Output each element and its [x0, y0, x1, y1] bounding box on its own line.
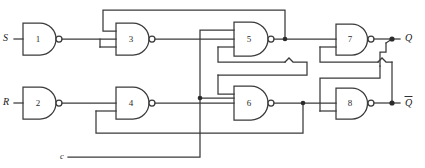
- gate-2-inverter-bubble: [56, 100, 62, 106]
- gate-1-inverter-bubble: [56, 36, 62, 42]
- junction-g6-output: [301, 101, 306, 106]
- wire-to-g6-mid-input: [218, 75, 234, 94]
- gate-6-inverter-bubble: [268, 100, 274, 106]
- output-label-q: Q: [405, 32, 413, 43]
- gate-8: 8: [336, 88, 374, 119]
- logic-diagram-canvas: 1 2 3 4 5 6: [0, 0, 425, 168]
- gate-4: 4: [116, 87, 155, 119]
- gate-3-inverter-bubble: [149, 36, 155, 42]
- wire-clock-to-g5: [68, 30, 234, 157]
- gate-6: 6: [234, 86, 274, 120]
- wire-crossover-hop-mid: [218, 58, 307, 75]
- gate-3-label: 3: [129, 34, 134, 44]
- gate-2: 2: [23, 87, 62, 119]
- gate-3: 3: [116, 23, 155, 55]
- gate-5-inverter-bubble: [268, 36, 274, 42]
- input-label-s: S: [3, 32, 8, 43]
- junction-qbar-output: [389, 100, 394, 105]
- input-label-r: R: [2, 96, 9, 107]
- gate-7-inverter-bubble: [368, 36, 374, 42]
- junction-g5-output: [283, 37, 288, 42]
- gate-1-label: 1: [36, 34, 41, 44]
- gate-8-label: 8: [348, 98, 353, 108]
- gate-2-label: 2: [36, 98, 41, 108]
- gate-4-label: 4: [129, 98, 134, 108]
- gate-5-label: 5: [247, 34, 252, 44]
- gate-7: 7: [336, 24, 374, 55]
- circuit-svg: 1 2 3 4 5 6: [0, 0, 425, 168]
- gate-4-inverter-bubble: [149, 100, 155, 106]
- gate-7-label: 7: [348, 34, 353, 44]
- wire-q-to-g8-riser: [380, 43, 386, 66]
- input-label-c: c: [60, 151, 64, 161]
- junction-clock-tap: [198, 96, 203, 101]
- gate-5: 5: [234, 22, 274, 56]
- output-label-qbar: Q: [405, 97, 413, 108]
- junction-q-output: [389, 36, 394, 41]
- gate-8-inverter-bubble: [368, 100, 374, 106]
- gate-1: 1: [23, 23, 62, 55]
- gate-6-label: 6: [247, 98, 252, 108]
